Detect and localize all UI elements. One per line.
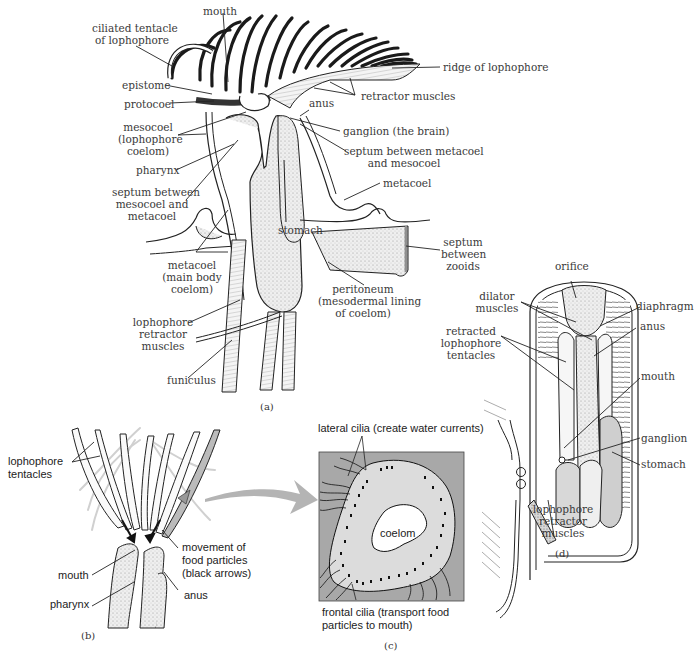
label-d-ganglion: ganglion <box>641 432 687 444</box>
label-a-metacoel: metacoel <box>383 177 431 189</box>
label-d-anus: anus <box>640 320 665 332</box>
caption-c: (c) <box>384 640 397 651</box>
label-a-septum-meso-meta: septum between mesocoel and metacoel <box>112 186 192 222</box>
label-a-funiculus: funiculus <box>167 374 216 386</box>
label-a-anus: anus <box>309 97 334 109</box>
label-a-septum-meta-meso: septum between metacoel and mesocoel <box>344 145 464 169</box>
label-a-ridge: ridge of lophophore <box>443 61 548 73</box>
caption-a: (a) <box>260 401 274 412</box>
label-c-lateral-cilia: lateral cilia (create water currents) <box>318 422 484 435</box>
label-a-pharynx: pharynx <box>136 164 179 176</box>
caption-b: (b) <box>81 630 95 641</box>
label-d-stomach: stomach <box>641 458 686 470</box>
figure-artwork <box>0 0 695 658</box>
label-b-mouth: mouth <box>58 569 89 582</box>
caption-d: (d) <box>555 548 569 559</box>
bryozoan-anatomy-figure: mouth ciliated tentacle of lophophore ep… <box>0 0 695 658</box>
label-a-metacoel-main: metacoel (main body coelom) <box>162 259 222 295</box>
label-b-pharynx: pharynx <box>50 598 89 611</box>
label-d-dilator: dilator muscles <box>472 290 522 314</box>
label-a-epistome: epistome <box>122 79 170 91</box>
label-b-anus: anus <box>184 589 208 602</box>
label-a-protocoel: protocoel <box>124 98 174 110</box>
label-d-retracted: retracted lophophore tentacles <box>440 325 502 361</box>
label-d-orifice: orifice <box>555 260 589 272</box>
label-b-tentacles: lophophore tentacles <box>8 455 63 481</box>
panel-d-drawing <box>482 282 638 618</box>
label-a-ganglion: ganglion (the brain) <box>343 125 449 137</box>
label-c-frontal-cilia: frontal cilia (transport food particles … <box>322 606 449 632</box>
label-a-lophophore-retractor: lophophore retractor muscles <box>132 316 194 352</box>
arrow-b-to-c <box>205 480 318 514</box>
label-b-movement: movement of food particles (black arrows… <box>182 541 251 580</box>
label-a-peritoneum: peritoneum (mesodermal lining of coelom) <box>318 283 408 319</box>
label-a-mesocoel: mesocoel (lophophore coelom) <box>118 121 178 157</box>
label-c-coelom: coelom <box>380 527 415 540</box>
label-a-septum-zooids: septum between zooids <box>441 236 485 272</box>
label-d-mouth: mouth <box>641 370 675 382</box>
label-a-mouth: mouth <box>203 5 237 17</box>
label-d-retractor: lophophore retractor muscles <box>532 503 594 539</box>
label-d-diaphragm: diaphragm <box>636 300 694 312</box>
label-a-ciliated-tentacle: ciliated tentacle of lophophore <box>92 22 172 46</box>
label-a-retractor-muscles: retractor muscles <box>361 90 455 102</box>
label-a-stomach: stomach <box>278 224 323 236</box>
